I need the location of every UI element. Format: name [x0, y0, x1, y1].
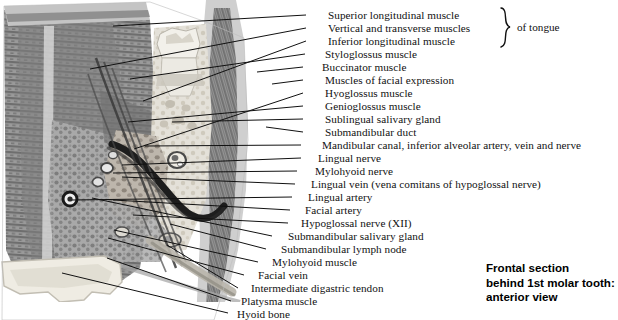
label-submandibular-salivary-gland: Submandibular salivary gland [288, 230, 424, 242]
label-mylohyoid-muscle: Mylohyoid muscle [272, 256, 357, 268]
marrow-space [165, 100, 175, 108]
label-hyoid-bone: Hyoid bone [237, 308, 290, 320]
facial-artery-center [67, 196, 72, 201]
label-submandibular-lymph-node: Submandibular lymph node [281, 243, 407, 255]
lingual-vein-lumen [93, 178, 104, 187]
figure-page: Superior longitudinal muscleVertical and… [0, 0, 618, 320]
label-muscles-of-facial-expression: Muscles of facial expression [325, 74, 454, 86]
lingual-artery-lumen [101, 163, 113, 173]
label-intermediate-digastric-tendon: Intermediate digastric tendon [251, 282, 384, 294]
label-hypoglossal-nerve-xii: Hypoglossal nerve (XII) [301, 217, 412, 229]
facial-vein-lumen [115, 227, 129, 237]
caption-line-1: Frontal section [486, 261, 615, 276]
anatomy-illustration [0, 0, 300, 320]
label-mylohyoid-nerve: Mylohyoid nerve [315, 165, 393, 177]
inferior-alveolar-vessel [172, 155, 179, 161]
label-sublingual-salivary-gland: Sublingual salivary gland [325, 113, 441, 125]
label-facial-vein: Facial vein [258, 269, 308, 281]
label-buccinator-muscle: Buccinator muscle [322, 61, 406, 73]
label-lingual-artery: Lingual artery [308, 191, 372, 203]
marrow-space [182, 104, 191, 111]
figure-caption: Frontal section behind 1st molar tooth: … [486, 261, 615, 305]
inferior-alveolar-nerve [177, 162, 182, 166]
label-mandibular-canal: Mandibular canal, inferior alveolar arte… [322, 139, 581, 151]
label-genioglossus-muscle: Genioglossus muscle [325, 100, 421, 112]
label-lingual-nerve: Lingual nerve [318, 152, 381, 164]
label-superior-longitudinal-muscle: Superior longitudinal muscle [328, 9, 459, 21]
label-platysma-muscle: Platysma muscle [241, 295, 317, 307]
label-hyoglossus-muscle: Hyoglossus muscle [325, 87, 413, 99]
label-styloglossus-muscle: Styloglossus muscle [325, 48, 417, 60]
label-inferior-longitudinal-muscle: Inferior longitudinal muscle [328, 35, 455, 47]
caption-line-3: anterior view [486, 290, 615, 305]
marrow-space [187, 122, 197, 130]
tongue-group-brace: of tongue [497, 7, 607, 49]
marrow-space [172, 116, 184, 124]
label-lingual-vein: Lingual vein (vena comitans of hypogloss… [311, 178, 541, 190]
curly-brace-icon [501, 8, 510, 47]
label-facial-artery: Facial artery [305, 204, 362, 216]
alveolar-crest [156, 74, 204, 86]
label-submandibular-duct: Submandibular duct [325, 126, 416, 138]
label-vertical-and-transverse-muscles: Vertical and transverse muscles [328, 22, 470, 34]
marrow-space [160, 121, 168, 128]
caption-line-2: behind 1st molar tooth: [486, 276, 615, 291]
of-tongue-label: of tongue [517, 21, 560, 33]
